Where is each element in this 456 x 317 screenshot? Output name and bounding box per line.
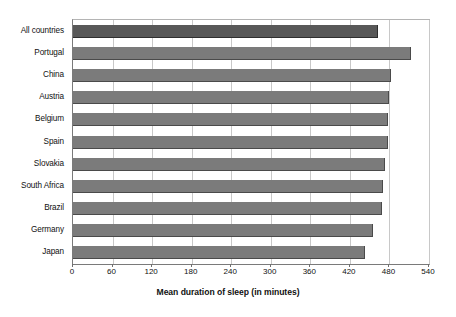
category-label: South Africa [0, 174, 68, 196]
category-label: Austria [0, 86, 68, 108]
bar[interactable] [73, 25, 378, 38]
bar[interactable] [73, 224, 373, 237]
x-tick-label: 0 [70, 267, 74, 276]
bar-row [73, 64, 429, 86]
plot-inner [73, 20, 429, 264]
category-label: Germany [0, 219, 68, 241]
category-label: Spain [0, 130, 68, 152]
bar[interactable] [73, 69, 391, 82]
bar-chart: All countriesPortugalChinaAustriaBelgium… [0, 0, 456, 317]
x-tick-label: 360 [303, 267, 316, 276]
category-label: All countries [0, 19, 68, 41]
bar-row [73, 87, 429, 109]
bar-row [73, 220, 429, 242]
x-tick-label: 420 [342, 267, 355, 276]
bar-row [73, 242, 429, 264]
category-label: Portugal [0, 41, 68, 63]
bar-row [73, 109, 429, 131]
x-tick-label: 300 [263, 267, 276, 276]
bar-row [73, 153, 429, 175]
bar-row [73, 20, 429, 42]
bar[interactable] [73, 158, 385, 171]
category-label: Slovakia [0, 152, 68, 174]
category-label: Japan [0, 241, 68, 263]
bar[interactable] [73, 136, 388, 149]
bar[interactable] [73, 180, 383, 193]
category-label: China [0, 63, 68, 85]
x-tick-label: 540 [421, 267, 434, 276]
x-tick-label: 480 [382, 267, 395, 276]
bar[interactable] [73, 113, 388, 126]
plot-area [72, 19, 430, 265]
x-tick-label: 180 [184, 267, 197, 276]
category-label: Belgium [0, 108, 68, 130]
gridline [429, 20, 430, 264]
x-axis-title: Mean duration of sleep (in minutes) [0, 287, 456, 297]
x-axis: 060120180240300360420480540 [72, 264, 429, 280]
x-tick-label: 120 [144, 267, 157, 276]
x-tick-label: 60 [107, 267, 116, 276]
bar[interactable] [73, 91, 389, 104]
x-tick-label: 240 [224, 267, 237, 276]
bar-row [73, 131, 429, 153]
bar-row [73, 198, 429, 220]
bar-row [73, 175, 429, 197]
bar[interactable] [73, 47, 411, 60]
bar[interactable] [73, 202, 382, 215]
bar[interactable] [73, 246, 365, 259]
bar-row [73, 42, 429, 64]
category-axis: All countriesPortugalChinaAustriaBelgium… [0, 19, 68, 263]
category-label: Brazil [0, 197, 68, 219]
bars-layer [73, 20, 429, 264]
